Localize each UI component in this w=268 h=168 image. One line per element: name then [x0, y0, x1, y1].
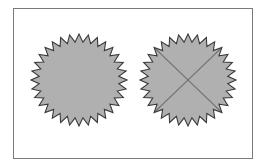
starburst-plain-shape [31, 34, 127, 126]
starburst-crossed-shape [140, 34, 236, 126]
diagram-canvas [0, 0, 268, 168]
